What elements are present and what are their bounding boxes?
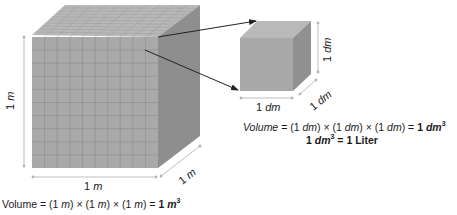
eq-small-result-exp: 3 (442, 120, 446, 127)
big-volume-equation: Volume = (1 m) × (1 m) × (1 m) = 1 m3 (2, 197, 180, 210)
eq-big-mid-2: ) × (1 (106, 198, 134, 210)
eq-small-result-num: 1 (417, 121, 426, 133)
liter-num: 1 (306, 134, 315, 146)
eq-big-mid-1: ) × (1 (70, 198, 98, 210)
big-height-label-num: 1 (4, 104, 16, 110)
eq-big-mid-3: ) = (143, 198, 158, 210)
diagram-canvas (0, 0, 457, 215)
eq-big-unit-1: m (61, 198, 70, 210)
big-cube (32, 5, 200, 168)
big-height-label-unit: m (4, 92, 16, 101)
eq-small-result-unit: dm (426, 121, 442, 133)
eq-small-eq: = (1 (278, 121, 302, 133)
small-height-label-unit: dm (321, 38, 333, 53)
small-width-label-num: 1 (256, 101, 262, 113)
eq-big-prefix: Volume = (1 (2, 198, 61, 210)
big-height-label: 1 m (4, 92, 16, 110)
eq-big-result-exp: 3 (177, 197, 181, 204)
eq-small-unit-3: dm (387, 121, 402, 133)
eq-small-mid-1: ) × (1 (317, 121, 345, 133)
small-width-label-unit: dm (265, 101, 280, 113)
liter-rest: = 1 Liter (334, 134, 377, 146)
eq-big-result-unit: m (167, 198, 176, 210)
small-volume-equation: Volume = (1 dm) × (1 dm) × (1 dm) = 1 dm… (243, 120, 446, 133)
small-width-label: 1 dm (256, 101, 280, 113)
eq-small-mid-2: ) × (1 (359, 121, 387, 133)
eq-small-prefix: Volume (243, 121, 278, 133)
small-cube-front-face (240, 38, 293, 91)
big-width-label-num: 1 (84, 180, 90, 192)
liter-unit: dm (315, 134, 331, 146)
eq-small-unit-2: dm (345, 121, 360, 133)
eq-small-unit-1: dm (302, 121, 317, 133)
small-cube (240, 21, 311, 91)
eq-small-mid-3: ) = (402, 121, 417, 133)
big-width-label: 1 m (84, 180, 102, 192)
liter-equivalence: 1 dm3 = 1 Liter (306, 133, 378, 146)
small-height-label: 1 dm (321, 38, 333, 62)
eq-big-unit-3: m (134, 198, 143, 210)
small-height-label-num: 1 (321, 56, 333, 62)
big-width-label-unit: m (93, 180, 102, 192)
eq-big-result-num: 1 (158, 198, 167, 210)
